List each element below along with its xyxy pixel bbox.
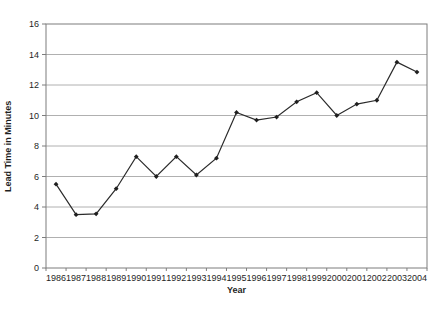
svg-text:12: 12: [29, 80, 39, 90]
svg-text:1994: 1994: [206, 273, 226, 283]
lead-time-line-chart: 0246810121416198619871988198919901991199…: [0, 0, 445, 313]
svg-text:1996: 1996: [247, 273, 267, 283]
x-axis-title: Year: [46, 285, 427, 295]
y-axis-title: Lead Time in Minutes: [3, 24, 13, 268]
svg-text:16: 16: [29, 19, 39, 29]
svg-text:14: 14: [29, 50, 39, 60]
svg-text:2: 2: [34, 233, 39, 243]
svg-text:2004: 2004: [407, 273, 427, 283]
svg-text:2002: 2002: [367, 273, 387, 283]
svg-text:1998: 1998: [287, 273, 307, 283]
svg-text:1992: 1992: [166, 273, 186, 283]
svg-text:1997: 1997: [267, 273, 287, 283]
svg-text:1986: 1986: [46, 273, 66, 283]
svg-text:1991: 1991: [146, 273, 166, 283]
svg-text:1987: 1987: [66, 273, 86, 283]
svg-text:1993: 1993: [186, 273, 206, 283]
svg-text:10: 10: [29, 111, 39, 121]
svg-text:8: 8: [34, 141, 39, 151]
svg-text:1999: 1999: [307, 273, 327, 283]
svg-text:1989: 1989: [106, 273, 126, 283]
svg-text:0: 0: [34, 263, 39, 273]
svg-text:1988: 1988: [86, 273, 106, 283]
svg-text:2000: 2000: [327, 273, 347, 283]
svg-text:2003: 2003: [387, 273, 407, 283]
svg-text:6: 6: [34, 172, 39, 182]
svg-text:1990: 1990: [126, 273, 146, 283]
chart-plot-area: 0246810121416198619871988198919901991199…: [0, 0, 445, 313]
svg-text:4: 4: [34, 202, 39, 212]
svg-text:1995: 1995: [226, 273, 246, 283]
svg-text:2001: 2001: [347, 273, 367, 283]
